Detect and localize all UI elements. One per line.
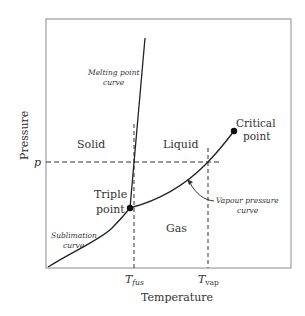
sublimation-curve-label-line1: Sublimation — [51, 231, 97, 240]
vapour-curve-label-line1: Vapour pressure — [216, 196, 279, 205]
arrow-head-icon — [187, 179, 193, 185]
triple-point-marker — [127, 205, 133, 211]
critical-point-label-line1: Critical — [236, 117, 276, 129]
triple-point-label-line1: Triple — [94, 188, 127, 201]
triple-point-label-line2: point — [96, 203, 125, 216]
critical-point-label-line2: point — [243, 130, 271, 142]
phase-diagram: Solid Liquid Gas Triple point Critical p… — [0, 0, 305, 316]
melting-point-curve — [130, 38, 145, 208]
gas-region-label: Gas — [166, 222, 187, 235]
x-axis-label: Temperature — [141, 291, 213, 304]
x-tick-tfus: Tfus — [125, 273, 144, 287]
y-axis-label: Pressure — [18, 111, 31, 160]
sublimation-curve-label-line2: curve — [63, 241, 85, 250]
vapour-curve-label-line2: curve — [237, 206, 259, 215]
y-tick-p: p — [34, 156, 41, 169]
vapour-label-arrow — [190, 183, 214, 201]
melting-curve-label-line2: curve — [103, 78, 125, 87]
melting-curve-label-line1: Melting point — [87, 68, 140, 77]
liquid-region-label: Liquid — [163, 138, 199, 151]
x-tick-tvap: Tvap — [198, 273, 219, 287]
solid-region-label: Solid — [77, 138, 105, 151]
